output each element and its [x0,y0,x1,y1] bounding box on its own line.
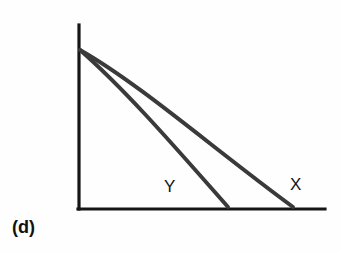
curve-labels-group: Y X [164,175,301,196]
axes-group [78,25,325,209]
plot-area: Y X (d) [0,0,341,253]
curve-x-path [80,50,293,207]
curve-label-x: X [290,175,301,194]
figure-panel: Y X (d) [0,0,341,253]
curve-label-y: Y [164,177,175,196]
curves-group [80,50,293,207]
panel-label: (d) [12,217,35,237]
curve-y-path [80,50,228,207]
